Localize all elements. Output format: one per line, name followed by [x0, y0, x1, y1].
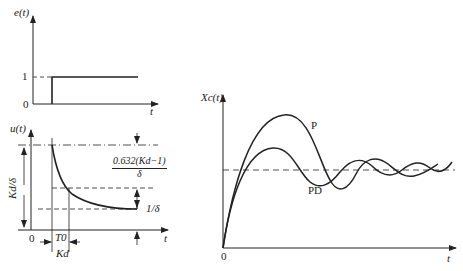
decay-fraction-numerator: 0.632(Kd−1): [112, 156, 167, 169]
xc-origin-label: 0: [221, 251, 227, 262]
xc-x-label: t: [447, 253, 450, 264]
u-x-label: t: [164, 233, 167, 244]
pd-curve-label: PD: [308, 185, 322, 196]
t0-label: T0: [55, 232, 67, 243]
control-output-plot: [18, 130, 168, 252]
response-plot: [223, 95, 456, 248]
p-curve-label: P: [311, 120, 317, 131]
u-origin-label: 0: [29, 233, 35, 244]
decay-fraction: 0.632(Kd−1) δ: [112, 156, 167, 179]
kd-delta-label: Kd/δ: [7, 178, 18, 199]
kd-label: Kd: [56, 248, 69, 259]
pd-response-curve: [223, 148, 452, 248]
e-x-label: t: [150, 106, 153, 117]
e-tick-zero: 0: [23, 99, 29, 110]
error-step-plot: [33, 16, 158, 104]
e-step-signal: [52, 77, 138, 104]
decay-fraction-denominator: δ: [112, 169, 167, 180]
diagram-canvas: [0, 0, 463, 271]
u-y-label: u(t): [10, 123, 26, 134]
xc-y-label: Xc(t): [201, 92, 223, 103]
e-tick-one: 1: [22, 71, 28, 82]
e-y-label: e(t): [14, 7, 29, 18]
steady-label: 1/δ: [146, 203, 160, 214]
